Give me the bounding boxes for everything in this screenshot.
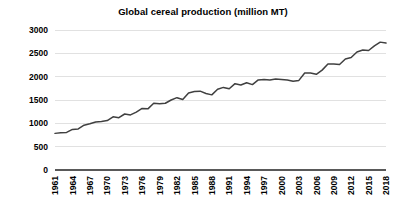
y-axis-tick-label: 0 [43, 165, 48, 175]
x-axis-tick-label: 1979 [155, 176, 165, 195]
x-axis-tick-label: 1976 [137, 176, 147, 195]
y-axis-tick-label: 3000 [29, 25, 48, 35]
x-axis-tick-label: 1961 [50, 176, 60, 195]
y-axis-tick-label: 2000 [29, 72, 48, 82]
y-axis-tick-label: 1500 [29, 95, 48, 105]
y-axis-tick-label: 2500 [29, 48, 48, 58]
x-axis-tick-label: 2018 [381, 176, 391, 195]
x-axis-tick-label: 2009 [329, 176, 339, 195]
x-axis-tick-label: 2015 [364, 176, 374, 195]
x-axis-tick-label: 1967 [85, 176, 95, 195]
x-axis-tick-label: 1982 [172, 176, 182, 195]
y-axis-tick-label: 1000 [29, 118, 48, 128]
x-axis-tick-label: 1991 [224, 176, 234, 195]
x-axis-tick-label: 2000 [277, 176, 287, 195]
x-axis-tick-labels: 1961196419671970197319761979198219851988… [50, 176, 391, 195]
x-axis-tick-label: 1985 [190, 176, 200, 195]
x-axis-tick-label: 2006 [312, 176, 322, 195]
y-axis-tick-labels: 050010001500200025003000 [29, 25, 48, 175]
series-line [55, 42, 386, 133]
chart-container: Global cereal production (million MT) 05… [0, 0, 406, 220]
x-axis-tick-label: 1997 [259, 176, 269, 195]
x-axis-tick-label: 1964 [68, 176, 78, 195]
x-axis-tick-label: 1970 [102, 176, 112, 195]
x-axis-tick-label: 2003 [294, 176, 304, 195]
data-series [55, 42, 386, 133]
x-axis-tick-label: 2012 [346, 176, 356, 195]
x-axis-tick-label: 1988 [207, 176, 217, 195]
line-chart-plot: 050010001500200025003000 196119641967197… [0, 0, 406, 220]
y-axis-tick-label: 500 [34, 142, 48, 152]
x-axis-tick-label: 1973 [120, 176, 130, 195]
x-axis-tick-label: 1994 [242, 176, 252, 195]
